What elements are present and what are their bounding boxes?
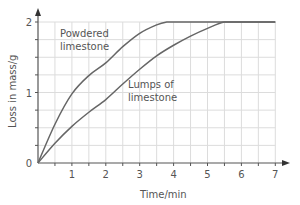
x-axis-arrow-icon bbox=[282, 160, 290, 166]
x-tick-label: 7 bbox=[272, 169, 278, 180]
x-tick-label: 1 bbox=[69, 169, 75, 180]
x-tick-label: 3 bbox=[137, 169, 143, 180]
x-tick-label: 4 bbox=[170, 169, 176, 180]
x-tick-label: 5 bbox=[204, 169, 210, 180]
y-tick-label: 2 bbox=[26, 17, 32, 28]
lumps-label-line2: limestone bbox=[128, 92, 177, 103]
y-axis-title: Loss in mass/g bbox=[7, 55, 18, 128]
x-tick-label: 6 bbox=[238, 169, 244, 180]
powdered-label-line2: limestone bbox=[60, 41, 109, 52]
lumps-label-line1: Lumps of bbox=[128, 79, 174, 90]
y-tick-label: 1 bbox=[26, 88, 32, 99]
chart: 1234567012 Powdered limestone Lumps of l… bbox=[0, 0, 300, 205]
x-axis-title: Time/min bbox=[139, 189, 187, 200]
powdered-label-line1: Powdered bbox=[60, 28, 109, 39]
x-tick-label: 2 bbox=[103, 169, 109, 180]
y-tick-label: 0 bbox=[26, 158, 32, 169]
y-axis-arrow-icon bbox=[35, 8, 41, 16]
